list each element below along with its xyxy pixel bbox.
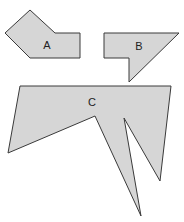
shape-a-label: A — [43, 39, 51, 51]
shape-c-label: C — [88, 96, 96, 108]
shapes-diagram: A B C — [0, 0, 184, 222]
shape-b-label: B — [135, 40, 142, 52]
